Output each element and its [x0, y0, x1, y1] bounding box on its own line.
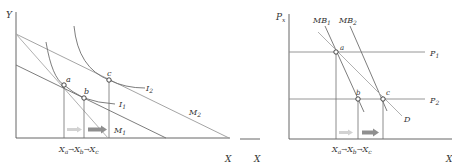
right-panel-demand-diagram: Px X X P1 P2 MB1 MB2 D a b c: [240, 12, 452, 164]
point-c: [107, 78, 111, 82]
left-x-tick-labels: Xa→Xb→Xc: [58, 145, 99, 155]
label-m2: M2: [188, 108, 201, 118]
compensated-budget-line: [16, 65, 166, 138]
point-b-label: b: [84, 87, 89, 96]
right-income-effect-arrow: [362, 129, 379, 137]
right-point-b-label: b: [356, 89, 361, 97]
right-y-axis-label: Px: [275, 12, 286, 23]
substitution-effect-arrow: [67, 127, 82, 133]
label-p1: P1: [429, 49, 439, 59]
label-d: D: [403, 115, 411, 124]
point-b: [82, 96, 86, 100]
label-p2: P2: [429, 96, 439, 106]
budget-line-m2: [16, 34, 229, 138]
right-x-tick-labels: Xa→Xb→Xc: [331, 145, 372, 155]
point-c-label: c: [107, 69, 112, 78]
left-panel-indifference-diagram: Y X a b c I2 I1 M2 M1: [6, 10, 232, 164]
left-panel-x-edge-label: X: [253, 154, 261, 164]
right-point-c: [381, 97, 385, 101]
right-x-axis-label: X: [445, 154, 452, 164]
right-point-b: [356, 97, 360, 101]
left-x-axis-label: X: [224, 154, 232, 164]
right-point-a-label: a: [340, 44, 344, 52]
right-substitution-effect-arrow: [339, 130, 353, 136]
label-i1: I1: [118, 100, 126, 110]
label-mb1: MB1: [312, 16, 331, 26]
right-point-c-label: c: [386, 89, 390, 97]
right-point-a: [334, 50, 338, 54]
economics-diagram: Y X a b c I2 I1 M2 M1: [0, 0, 452, 167]
point-a-label: a: [66, 75, 71, 84]
label-mb2: MB2: [338, 16, 357, 26]
indifference-curve-i1: [46, 42, 115, 104]
label-m1: M1: [113, 126, 126, 136]
label-i2: I2: [145, 84, 153, 94]
left-y-axis-label: Y: [6, 10, 13, 20]
